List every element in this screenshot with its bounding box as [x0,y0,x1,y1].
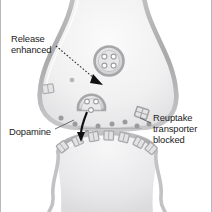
receptor [118,132,129,143]
receptor [88,131,99,142]
dopamine-dot [135,124,140,129]
vesicle-dopamine-dot [102,63,107,68]
postsynaptic-wall-left [49,152,58,212]
receptor [104,131,114,140]
reuptake-transporter-left [42,84,54,94]
dopamine-dot [73,122,78,127]
vesicle-dopamine-dot [111,63,116,68]
vesicle-dopamine-dot [94,99,99,104]
vesicle-dopamine-dot [102,54,107,59]
postsynaptic-wall-right [156,152,165,212]
vesicle-dopamine-dot [111,54,116,59]
label-dopamine: Dopamine [9,126,51,137]
label-release-enhanced: Release enhanced [11,33,51,55]
dopamine-dot [96,124,101,129]
dopamine-dot [70,78,75,83]
synaptic-vesicle-fusing [78,95,105,113]
vesicle-dopamine-dot [85,99,90,104]
figure-frame: Release enhanced Dopamine Reuptake trans… [0,0,212,212]
synapse-diagram [1,0,212,212]
label-reuptake-transporter-blocked: Reuptake transporter blocked [153,112,197,146]
synaptic-vesicle-free [95,47,124,76]
vesicle-dopamine-dot [89,108,94,113]
dopamine-dot [123,120,128,125]
dopamine-dot [110,122,115,127]
presynaptic-membrane-bottom [80,128,140,130]
dopamine-dot [59,116,64,121]
